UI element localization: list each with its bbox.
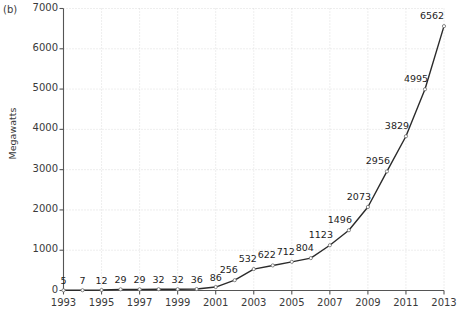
data-point-label: 712 (277, 246, 295, 257)
x-tick-label: 1995 (89, 297, 114, 308)
y-tick-label: 3000 (18, 164, 58, 174)
data-point-marker (347, 229, 350, 232)
data-point-label: 32 (153, 274, 165, 285)
data-point-label: 532 (239, 253, 257, 264)
vertical-gridlines (102, 9, 444, 291)
data-point-marker (119, 288, 122, 291)
data-point-label: 1496 (328, 214, 352, 225)
data-point-marker (290, 260, 293, 263)
x-tick-label: 2005 (279, 297, 304, 308)
data-point-label: 3829 (385, 120, 409, 131)
x-tick-label: 1999 (165, 297, 190, 308)
x-tick-label: 2013 (431, 297, 456, 308)
data-point-label: 2073 (347, 191, 371, 202)
data-point-label: 804 (296, 242, 314, 253)
data-point-marker (252, 267, 255, 270)
data-point-marker (442, 25, 445, 28)
data-point-label: 29 (115, 274, 127, 285)
x-tick-label: 2003 (241, 297, 266, 308)
data-point-marker (157, 288, 160, 291)
panel-label: (b) (3, 4, 17, 15)
x-tick-label: 2009 (355, 297, 380, 308)
x-tick-label: 2011 (393, 297, 418, 308)
data-point-marker (100, 288, 103, 291)
y-tick-label: 0 (18, 285, 58, 295)
data-point-label: 2956 (366, 155, 390, 166)
axis-tick-marks (60, 9, 445, 295)
data-point-marker (328, 244, 331, 247)
data-point-label: 622 (258, 249, 276, 260)
data-point-label: 36 (191, 274, 203, 285)
data-point-label: 7 (79, 275, 85, 286)
data-point-marker (423, 88, 426, 91)
data-point-label: 12 (96, 275, 108, 286)
data-point-marker (138, 288, 141, 291)
data-point-label: 4995 (404, 73, 428, 84)
data-point-marker (176, 288, 179, 291)
data-point-marker (81, 289, 84, 292)
y-tick-label: 1000 (18, 244, 58, 254)
data-point-marker (404, 135, 407, 138)
y-tick-label: 7000 (18, 3, 58, 13)
data-point-label: 256 (220, 264, 238, 275)
x-tick-label: 2001 (203, 297, 228, 308)
x-tick-label: 1997 (127, 297, 152, 308)
data-point-label: 1123 (309, 229, 333, 240)
data-point-marker (366, 205, 369, 208)
data-point-marker (233, 279, 236, 282)
data-point-marker (271, 264, 274, 267)
x-tick-label: 1993 (51, 297, 76, 308)
data-point-label: 6562 (420, 10, 444, 21)
y-tick-label: 5000 (18, 83, 58, 93)
data-point-marker (195, 287, 198, 290)
y-axis-title: Megawatts (7, 104, 18, 164)
data-point-marker (214, 285, 217, 288)
y-tick-label: 6000 (18, 43, 58, 53)
data-point-marker (309, 257, 312, 260)
x-tick-label: 2007 (317, 297, 342, 308)
y-tick-label: 2000 (18, 204, 58, 214)
data-point-label: 29 (134, 274, 146, 285)
data-point-label: 32 (172, 274, 184, 285)
data-point-label: 5 (60, 275, 66, 286)
data-point-marker (385, 170, 388, 173)
y-tick-label: 4000 (18, 123, 58, 133)
data-point-marker (62, 289, 65, 292)
